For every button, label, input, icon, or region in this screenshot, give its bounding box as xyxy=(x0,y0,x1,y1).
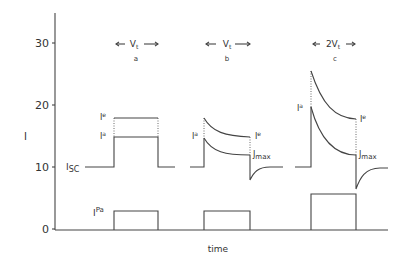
ia-label-b: Ia xyxy=(192,130,198,141)
ia-label-a: Ia xyxy=(100,130,106,141)
panel-c-traces xyxy=(295,71,388,230)
panel-label-a: a xyxy=(134,55,138,63)
jmax-label-b: Jmax xyxy=(252,150,271,161)
y-tick-30: 30 xyxy=(35,37,49,50)
y-tick-10: 10 xyxy=(35,161,49,174)
ie-label-b: Ie xyxy=(255,130,261,141)
ia-label-c: Ia xyxy=(297,102,303,113)
jmax-label-c: Jmax xyxy=(358,150,377,161)
panel-label-b: b xyxy=(225,55,230,63)
x-axis-label: time xyxy=(208,244,229,254)
ipa-label: IPa xyxy=(93,206,104,218)
panel-b-traces xyxy=(190,118,283,230)
panel-label-c: c xyxy=(333,55,337,63)
vt-label-a: Vt xyxy=(130,39,139,50)
y-tick-20: 20 xyxy=(35,99,49,112)
vt-label-b: Vt xyxy=(223,39,232,50)
vt-label-c: 2Vt xyxy=(326,39,341,50)
ie-label-a: Ie xyxy=(100,111,106,122)
y-tick-0: 0 xyxy=(42,223,49,236)
chart: 30 20 10 0 I time ISC IPa Ie Ia Vt a Ia … xyxy=(0,0,405,263)
isc-label: ISC xyxy=(66,162,80,174)
ie-label-c: Ie xyxy=(360,113,366,124)
duration-arrows xyxy=(116,42,355,46)
y-axis-label: I xyxy=(24,131,27,142)
